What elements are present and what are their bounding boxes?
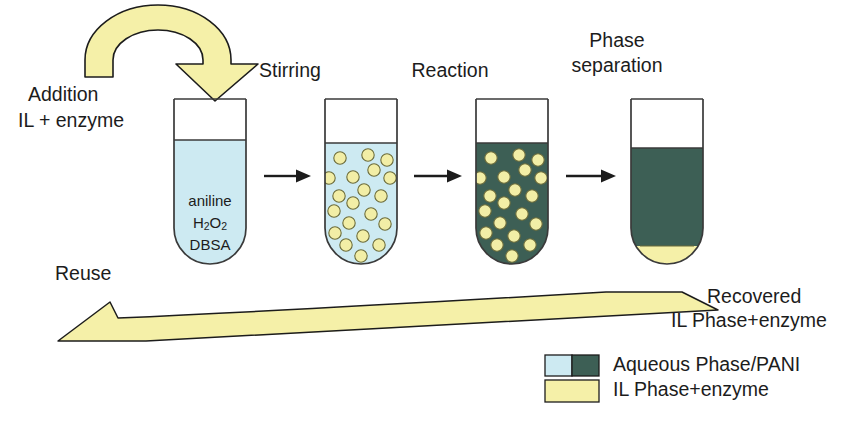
tube-4 xyxy=(631,99,703,286)
tube-1-content-dbsa: DBSA xyxy=(190,236,231,255)
tube-3 xyxy=(474,99,548,273)
step-arrow-3-4 xyxy=(566,170,616,183)
reuse-label: Reuse xyxy=(55,263,111,284)
tube-1-content-h2o2: H2O2 xyxy=(193,214,227,233)
step-arrow-1-2 xyxy=(264,170,311,183)
legend-label-aqueous-pani: Aqueous Phase/PANI xyxy=(613,354,800,375)
step-arrow-2-3 xyxy=(414,170,462,183)
tube-4-pani-fill xyxy=(631,148,703,246)
stage-label-stirring: Stirring xyxy=(259,60,321,81)
addition-label-line1: Addition xyxy=(28,84,98,105)
legend-swatch-il-enzyme xyxy=(545,380,599,402)
stage-label-reaction: Reaction xyxy=(412,60,489,81)
recycle-top-arrow xyxy=(85,5,258,101)
legend-label-il-enzyme: IL Phase+enzyme xyxy=(613,379,769,400)
tube-4-il-fill xyxy=(631,246,703,286)
tube-2 xyxy=(323,99,397,273)
diagram-canvas: Stirring Reaction Phase separation Addit… xyxy=(0,0,868,421)
recycle-bottom-arrow xyxy=(58,292,718,341)
stage-label-phase-separation-line2: separation xyxy=(571,55,662,76)
addition-label-line2: IL + enzyme xyxy=(18,110,124,131)
stage-label-phase-separation-line1: Phase xyxy=(589,30,644,51)
tube-1-content-aniline: aniline xyxy=(188,192,231,211)
recovered-label-line2: IL Phase+enzyme xyxy=(671,310,827,331)
legend-swatch-aqueous-pani xyxy=(545,355,599,376)
recovered-label-line1: Recovered xyxy=(707,286,801,307)
